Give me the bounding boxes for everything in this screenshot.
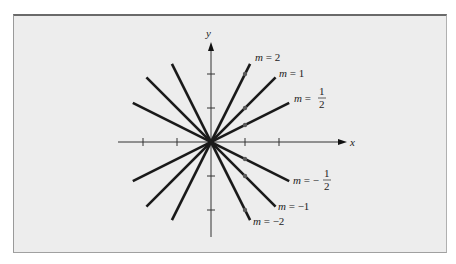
- y-axis-arrow-icon: [208, 42, 214, 51]
- x-axis-label: x: [349, 136, 355, 148]
- slope-label: m = −1: [278, 200, 309, 212]
- slope-lines-chart: xym = 2m = 1m = 12m = −12m = −1m = −2: [0, 0, 456, 264]
- marker-point: [243, 106, 247, 110]
- slope-label: m = 2: [255, 51, 280, 63]
- marker-point: [243, 157, 247, 161]
- svg-text:1: 1: [324, 167, 330, 179]
- svg-text:m =: m =: [294, 92, 311, 104]
- svg-text:m = −1: m = −1: [278, 200, 309, 212]
- slope-label: m = 12: [294, 85, 326, 110]
- svg-text:2: 2: [324, 180, 330, 192]
- svg-text:m = 1: m = 1: [279, 67, 304, 79]
- svg-text:m = 2: m = 2: [255, 51, 280, 63]
- svg-text:m = −2: m = −2: [253, 215, 284, 227]
- marker-point: [243, 174, 247, 178]
- marker-point: [243, 72, 247, 76]
- marker-point: [243, 208, 247, 212]
- slope-label: m = −2: [253, 215, 284, 227]
- slope-label: m = 1: [279, 67, 304, 79]
- slope-label: m = −12: [293, 167, 331, 192]
- y-axis-label: y: [205, 27, 211, 39]
- svg-text:2: 2: [319, 98, 325, 110]
- svg-text:m = −: m = −: [293, 174, 319, 186]
- marker-point: [243, 123, 247, 127]
- x-axis-arrow-icon: [338, 139, 347, 145]
- svg-text:1: 1: [319, 85, 325, 97]
